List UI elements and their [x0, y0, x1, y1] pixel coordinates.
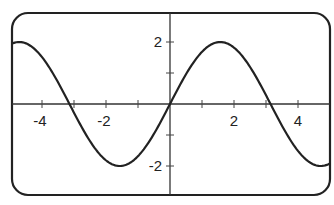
x-tick-label: 2 — [230, 112, 238, 129]
x-tick-label: -4 — [33, 112, 46, 129]
y-tick-label: -2 — [149, 157, 162, 174]
x-tick-label: 4 — [294, 112, 302, 129]
sine-chart: -4-224 2-2 — [0, 0, 334, 205]
x-tick-label: -2 — [97, 112, 110, 129]
y-tick-label: 2 — [154, 33, 162, 50]
